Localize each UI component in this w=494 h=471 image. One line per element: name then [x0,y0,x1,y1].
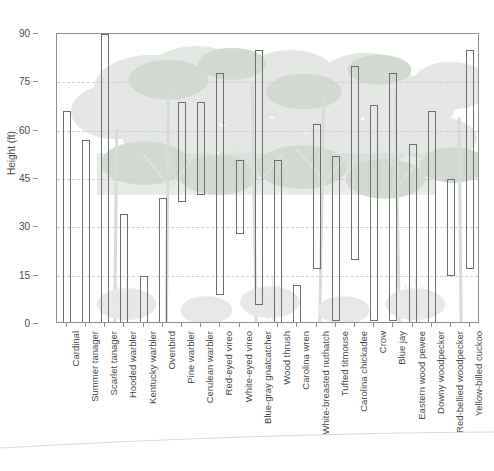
bar-scarlet-tanager [101,34,109,323]
bird-foraging-height-chart: Height (ft) 0153045607590 [0,0,494,471]
y-tick-mark-15 [33,275,38,276]
x-tick-label-ovenbird: Ovenbird [166,331,177,370]
x-tick-mark-16 [373,323,374,327]
y-tick-label-30: 30 [19,221,30,232]
x-tick-label-crow: Crow [377,331,388,353]
x-tick-label-kentucky-warbler: Kentucky warbler [147,331,158,404]
x-tick-label-scarlet-tanager: Scarlet tanager [108,331,119,395]
bar-blue-gray-gnatcatcher [255,50,263,305]
x-axis: CardinalSummer tanagerScarlet tanagerHoo… [56,323,479,471]
y-tick-label-75: 75 [19,76,30,87]
y-axis-title: Height (ft) [6,131,17,175]
x-tick-label-tufted-titmouse: Tufted titmouse [339,331,350,396]
bar-cerulean-warbler [197,102,205,195]
y-tick-mark-45 [33,178,38,179]
bar-cardinal [63,111,71,323]
x-tick-label-red-eyed-vireo: Red-eyed vireo [223,331,234,395]
bar-downy-woodpecker [428,111,436,323]
x-tick-label-red-bellied-woodpecker: Red-bellied woodpecker [454,331,465,433]
bar-yellow-billed-cuckoo [466,50,474,269]
y-tick-label-60: 60 [19,124,30,135]
plot-area [56,33,479,323]
x-tick-label-hooded-warbler: Hooded warbler [127,331,138,398]
x-tick-label-cerulean-warbler: Cerulean warbler [204,331,215,403]
x-tick-label-pine-warbler: Pine warbler [185,331,196,384]
x-tick-label-white-eyed-vireo: White-eyed vireo [243,331,254,402]
bar-red-eyed-vireo [216,73,224,295]
x-tick-mark-17 [392,323,393,327]
bar-white-breasted-nuthatch [313,124,321,269]
x-tick-mark-7 [200,323,201,327]
x-tick-mark-6 [181,323,182,327]
bar-carolina-wren [293,285,301,323]
x-tick-mark-15 [354,323,355,327]
y-tick-label-90: 90 [19,28,30,39]
bar-hooded-warbler [120,214,128,323]
bar-crow [370,105,378,321]
y-tick-mark-0 [33,323,38,324]
x-tick-label-carolina-chickadee: Carolina chickadee [358,331,369,412]
y-tick-mark-60 [33,130,38,131]
gridline-75 [57,82,478,83]
x-tick-mark-3 [123,323,124,327]
x-tick-mark-0 [66,323,67,327]
y-tick-mark-30 [33,226,38,227]
x-tick-mark-4 [143,323,144,327]
x-tick-label-blue-gray-gnatcatcher: Blue-gray gnatcatcher [262,331,273,424]
bar-tufted-titmouse [332,156,340,320]
bar-kentucky-warbler [140,276,148,323]
x-tick-mark-20 [450,323,451,327]
x-tick-label-wood-thrush: Wood thrush [281,331,292,385]
x-tick-mark-9 [239,323,240,327]
y-tick-label-45: 45 [19,173,30,184]
bar-wood-thrush [274,160,282,323]
bar-carolina-chickadee [351,66,359,259]
x-tick-mark-11 [277,323,278,327]
x-tick-mark-18 [412,323,413,327]
x-tick-mark-5 [162,323,163,327]
x-tick-mark-8 [219,323,220,327]
x-tick-label-summer-tanager: Summer tanager [89,331,100,402]
x-tick-mark-12 [296,323,297,327]
gridline-60 [57,131,478,132]
x-tick-mark-21 [469,323,470,327]
x-tick-mark-13 [316,323,317,327]
x-tick-mark-19 [431,323,432,327]
y-tick-label-15: 15 [19,269,30,280]
x-tick-label-carolina-wren: Carolina wren [300,331,311,390]
x-tick-label-blue-jay: Blue jay [396,331,407,365]
x-tick-label-downy-woodpecker: Downy woodpecker [435,331,446,414]
y-tick-label-0: 0 [24,318,30,329]
y-axis: Height (ft) 0153045607590 [0,0,56,400]
x-tick-label-cardinal: Cardinal [70,331,81,366]
bar-pine-warbler [178,102,186,202]
x-tick-label-white-breasted-nuthatch: White-breasted nuthatch [320,331,331,435]
bar-red-bellied-woodpecker [447,179,455,276]
x-tick-label-eastern-wood-pewee: Eastern wood pewee [416,331,427,420]
y-tick-mark-90 [33,33,38,34]
bar-blue-jay [389,73,397,321]
x-tick-mark-2 [104,323,105,327]
x-tick-mark-1 [85,323,86,327]
x-tick-mark-10 [258,323,259,327]
bar-eastern-wood-pewee [409,144,417,323]
bar-summer-tanager [82,140,90,323]
x-tick-label-yellow-billed-cuckoo: Yellow-billed cuckoo [473,331,484,416]
x-tick-mark-14 [335,323,336,327]
y-tick-mark-75 [33,81,38,82]
bar-white-eyed-vireo [236,160,244,234]
bar-ovenbird [159,198,167,323]
